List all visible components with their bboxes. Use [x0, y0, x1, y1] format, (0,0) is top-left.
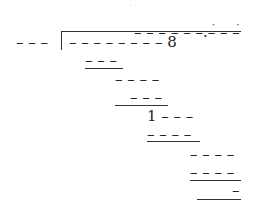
division-bar	[61, 31, 241, 32]
step-5: – – – –	[147, 126, 191, 142]
repeating-digit-end: –·	[232, 24, 240, 40]
step-3: – – –	[130, 89, 162, 105]
step-4: 1 – – –	[147, 108, 193, 124]
step-1: – – –	[85, 52, 117, 68]
repeating-digit-start: –·	[208, 24, 216, 40]
divisor: – – –	[16, 34, 48, 50]
step-3-underline	[115, 105, 168, 106]
step-7: – – – –	[190, 164, 234, 180]
step-2: – – – –	[115, 71, 159, 87]
division-bracket	[61, 31, 62, 50]
step-6: – – – –	[190, 146, 234, 162]
step-8: –	[232, 182, 240, 198]
step-5-underline	[147, 141, 200, 142]
step-1-underline	[85, 68, 123, 69]
dividend: – – – – – – – – 8	[69, 34, 177, 50]
stray-mark	[130, 5, 131, 6]
step-8-underline	[197, 199, 241, 200]
